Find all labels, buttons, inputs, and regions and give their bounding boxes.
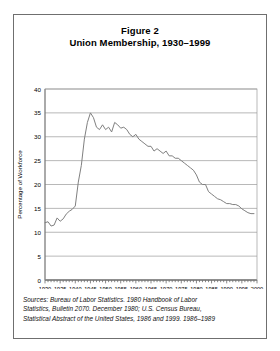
figure-title: Figure 2 Union Membership, 1930–1999 (14, 25, 266, 49)
gridlines (45, 89, 257, 280)
source-line-3: Statistical Abstract of the United State… (23, 314, 261, 323)
figure-title-line1: Figure 2 (14, 25, 266, 37)
svg-text:1960: 1960 (130, 286, 142, 289)
svg-text:1990: 1990 (220, 286, 232, 289)
figure-title-line2: Union Membership, 1930–1999 (14, 37, 266, 49)
svg-text:0: 0 (38, 277, 42, 284)
svg-text:10: 10 (34, 229, 41, 236)
svg-text:35: 35 (34, 109, 41, 116)
union-membership-series (45, 113, 254, 226)
svg-text:1980: 1980 (190, 286, 202, 289)
svg-text:1970: 1970 (160, 286, 172, 289)
svg-text:1945: 1945 (84, 286, 96, 289)
svg-text:30: 30 (34, 133, 41, 140)
source-note: Sources: Bureau of Labor Statistics. 198… (23, 295, 261, 323)
svg-text:1965: 1965 (145, 286, 157, 289)
source-line-1: Sources: Bureau of Labor Statistics. 198… (23, 295, 261, 304)
svg-text:2000: 2000 (251, 286, 263, 289)
y-axis-label: Percentage of Workforce (16, 150, 23, 219)
chart-plot-area: 0510152025303540 19301935194019451950195… (14, 59, 268, 289)
source-line-2: Statistics, Bulletin 2070. December 1980… (23, 304, 261, 313)
y-axis-tick-labels: 0510152025303540 (34, 86, 41, 284)
svg-text:40: 40 (34, 86, 41, 93)
union-membership-line-chart: 0510152025303540 19301935194019451950195… (14, 59, 268, 289)
x-axis-tick-labels: 1930193519401945195019551960196519701975… (39, 286, 263, 289)
svg-text:25: 25 (34, 157, 41, 164)
svg-text:15: 15 (34, 205, 41, 212)
svg-text:20: 20 (34, 181, 41, 188)
svg-text:1985: 1985 (205, 286, 217, 289)
svg-text:1995: 1995 (236, 286, 248, 289)
svg-text:1950: 1950 (99, 286, 111, 289)
svg-text:1930: 1930 (39, 286, 51, 289)
svg-text:1935: 1935 (54, 286, 66, 289)
figure-card: Figure 2 Union Membership, 1930–1999 051… (13, 14, 267, 339)
svg-text:1955: 1955 (114, 286, 126, 289)
svg-text:5: 5 (38, 253, 42, 260)
svg-text:1940: 1940 (69, 286, 81, 289)
x-axis-ticks (45, 280, 257, 283)
svg-text:1975: 1975 (175, 286, 187, 289)
